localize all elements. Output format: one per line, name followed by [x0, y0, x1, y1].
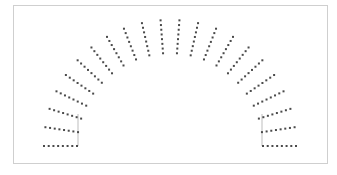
- seat-dot: [160, 24, 162, 26]
- seat-dot: [248, 46, 250, 48]
- seat-dot: [290, 145, 292, 147]
- seat-dot: [227, 44, 229, 46]
- seat-dot: [258, 118, 260, 120]
- seat-dot: [265, 79, 267, 81]
- seat-dot: [216, 64, 218, 66]
- seat-dot: [258, 85, 260, 87]
- seat-dot: [57, 145, 59, 147]
- seat-dot: [261, 131, 263, 133]
- seat-dot: [203, 58, 205, 60]
- seat-dot: [280, 128, 282, 130]
- seat-dot: [267, 145, 269, 147]
- dot-ray: [123, 28, 137, 61]
- dot-ray: [90, 46, 113, 74]
- seat-dot: [141, 22, 143, 24]
- seat-dot: [248, 72, 250, 74]
- seat-dot: [270, 130, 272, 132]
- seat-dot: [261, 59, 263, 61]
- seat-dot: [176, 48, 178, 50]
- seat-dot: [135, 58, 137, 60]
- seat-dot: [176, 52, 178, 54]
- seat-dot: [123, 28, 125, 30]
- seat-dot: [68, 96, 70, 98]
- dot-ray: [160, 19, 164, 54]
- seat-dot: [178, 24, 180, 26]
- seat-dot: [262, 145, 264, 147]
- seat-dot: [266, 99, 268, 101]
- seat-dot: [77, 131, 79, 133]
- seat-dot: [71, 115, 73, 117]
- dot-ray: [77, 59, 103, 83]
- seat-dot: [84, 87, 86, 89]
- dot-ray: [258, 108, 292, 120]
- seat-dot: [177, 43, 179, 45]
- seat-dot: [130, 45, 132, 47]
- dot-ray: [253, 90, 285, 106]
- seat-dot: [241, 79, 243, 81]
- dot-ray: [246, 74, 275, 95]
- seat-dot: [215, 28, 217, 30]
- seat-dot: [262, 116, 264, 118]
- seat-dot: [276, 112, 278, 114]
- seat-dot: [133, 54, 135, 56]
- seat-dot: [195, 31, 197, 33]
- seat-dot: [99, 58, 101, 60]
- seat-dot: [190, 54, 192, 56]
- seat-dot: [93, 50, 95, 52]
- seat-dot: [161, 38, 163, 40]
- seat-dot: [206, 50, 208, 52]
- seat-dot: [162, 52, 164, 54]
- guide-lines: [78, 114, 262, 146]
- seat-dot: [63, 129, 65, 131]
- seat-dot: [261, 82, 263, 84]
- seat-dot: [286, 145, 288, 147]
- seat-dot: [162, 48, 164, 50]
- seat-dot: [148, 54, 150, 56]
- seat-dot: [101, 82, 103, 84]
- seat-dot: [145, 41, 147, 43]
- seat-dot: [294, 126, 296, 128]
- dot-ray: [227, 46, 250, 74]
- seat-dot: [72, 130, 74, 132]
- dot-ray: [176, 19, 180, 54]
- seat-dot: [85, 105, 87, 107]
- seat-dot: [261, 101, 263, 103]
- seat-dot: [218, 60, 220, 62]
- seat-dot: [271, 113, 273, 115]
- seat-dot: [254, 87, 256, 89]
- seat-dot: [237, 82, 239, 84]
- seat-dot: [242, 54, 244, 56]
- seat-dot: [258, 63, 260, 65]
- seat-dot: [246, 93, 248, 95]
- seat-dot: [118, 56, 120, 58]
- seat-dot: [230, 40, 232, 42]
- seat-dot: [225, 48, 227, 50]
- seat-dot: [289, 127, 291, 129]
- seat-dot: [65, 74, 67, 76]
- seat-dot: [88, 90, 90, 92]
- seat-dot: [177, 38, 179, 40]
- seat-dot: [239, 58, 241, 60]
- seat-dot: [143, 31, 145, 33]
- seat-dot: [111, 44, 113, 46]
- radial-dot-arc-diagram: [0, 0, 337, 175]
- seat-dot: [96, 54, 98, 56]
- seat-dot: [160, 29, 162, 31]
- seat-dot: [270, 96, 272, 98]
- seat-dot: [177, 33, 179, 35]
- seat-dot: [289, 108, 291, 110]
- seat-dot: [230, 69, 232, 71]
- seat-dot: [295, 145, 297, 147]
- seat-dot: [125, 32, 127, 34]
- seat-dot: [275, 129, 277, 131]
- seat-dot: [132, 50, 134, 52]
- seat-dot: [285, 109, 287, 111]
- seat-dot: [77, 59, 79, 61]
- seat-dot: [81, 103, 83, 105]
- seat-dot: [251, 69, 253, 71]
- seat-dot: [108, 69, 110, 71]
- dot-ray: [44, 126, 79, 133]
- dot-ray: [190, 22, 199, 56]
- seat-dot: [80, 85, 82, 87]
- seat-dot: [220, 56, 222, 58]
